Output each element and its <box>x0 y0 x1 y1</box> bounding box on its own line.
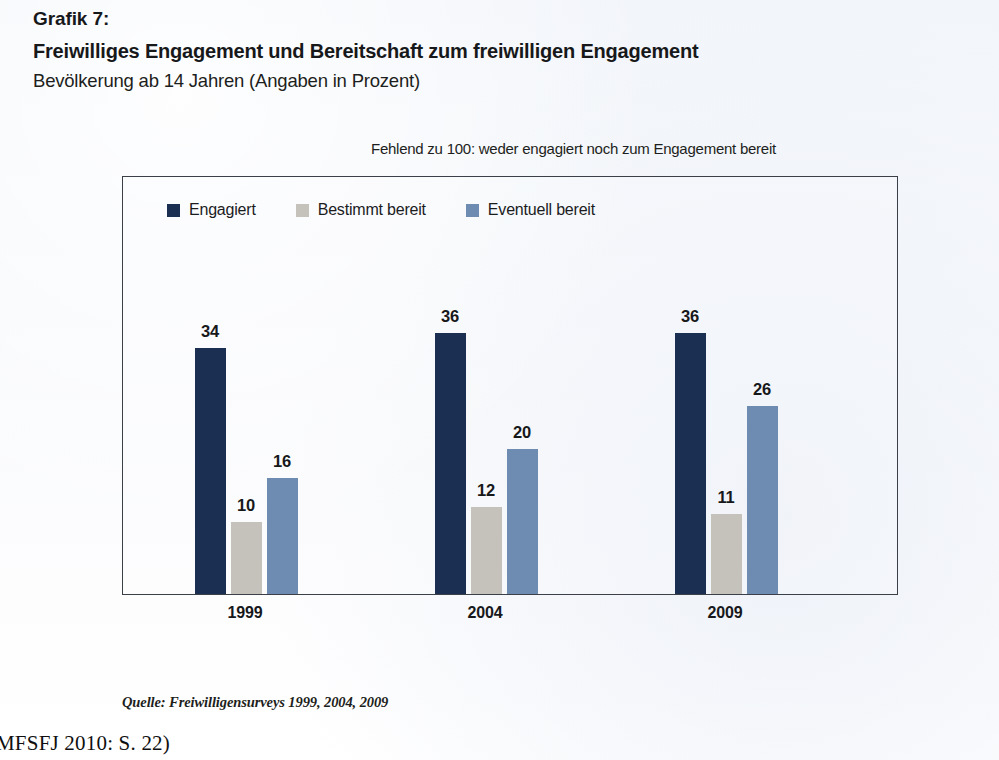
category-label-1999: 1999 <box>228 604 263 622</box>
figure-page: Grafik 7: Freiwilliges Engagement und Be… <box>0 0 999 760</box>
category-label-2004: 2004 <box>468 604 503 622</box>
bar-1999-eventuell-bereit: 16 <box>267 478 298 594</box>
chart-category-labels: 199920042009 <box>122 604 898 630</box>
bar-value-label: 36 <box>441 307 459 326</box>
bar-2009-bestimmt-bereit: 11 <box>711 514 742 594</box>
bar-value-label: 12 <box>477 481 495 500</box>
figure-number: Grafik 7: <box>33 6 973 32</box>
bar-value-label: 36 <box>681 307 699 326</box>
figure-heading: Grafik 7: Freiwilliges Engagement und Be… <box>33 6 973 95</box>
page-citation: MFSFJ 2010: S. 22) <box>0 731 170 756</box>
chart-plot-area: 341016361220361126 <box>123 177 897 594</box>
bar-1999-bestimmt-bereit: 10 <box>231 522 262 595</box>
bar-2004-engagiert: 36 <box>435 333 466 594</box>
category-label-2009: 2009 <box>708 604 743 622</box>
chart-note: Fehlend zu 100: weder engagiert noch zum… <box>371 140 776 157</box>
chart-plot-frame: Engagiert Bestimmt bereit Eventuell bere… <box>122 176 898 595</box>
figure-title: Freiwilliges Engagement und Bereitschaft… <box>33 36 973 66</box>
bar-value-label: 26 <box>753 380 771 399</box>
chart-source: Quelle: Freiwilligensurveys 1999, 2004, … <box>122 694 388 711</box>
bar-value-label: 11 <box>717 488 734 507</box>
bar-2009-eventuell-bereit: 26 <box>747 406 778 595</box>
bar-value-label: 16 <box>273 452 291 471</box>
bar-value-label: 10 <box>237 496 255 515</box>
figure-subtitle: Bevölkerung ab 14 Jahren (Angaben in Pro… <box>33 67 973 95</box>
bar-2009-engagiert: 36 <box>675 333 706 594</box>
bar-value-label: 34 <box>201 322 219 341</box>
bar-2004-bestimmt-bereit: 12 <box>471 507 502 594</box>
bar-2004-eventuell-bereit: 20 <box>507 449 538 594</box>
bar-value-label: 20 <box>513 423 531 442</box>
bar-1999-engagiert: 34 <box>195 348 226 595</box>
